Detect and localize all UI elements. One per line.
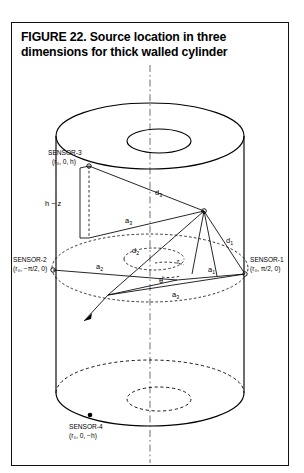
theta-outer-arc (155, 262, 184, 265)
sensor-4-label: SENSOR-4 (69, 423, 103, 430)
sensor-1-label: SENSOR-1 (250, 256, 284, 263)
d1-label: d1 (226, 236, 233, 246)
bottom-inner-bore-ellipse (127, 387, 191, 411)
theta-label: θ (159, 276, 163, 285)
source-circle-front-arc (124, 259, 184, 270)
figure-caption: FIGURE 22. Source location in three dime… (12, 23, 288, 60)
h-minus-z-label: h − z (45, 199, 62, 208)
sensor-2-label: SENSOR-2 (13, 256, 47, 263)
figure-container: FIGURE 22. Source location in three dime… (11, 22, 289, 466)
d3-label: d3 (155, 188, 162, 198)
a1-label: a1 (208, 265, 215, 275)
top-inner-bore-ellipse (127, 129, 191, 153)
a3-label-upper: a3 (125, 216, 132, 226)
d2-label: d2 (132, 246, 139, 256)
sensor-3-label: SENSOR-3 (48, 149, 82, 156)
radius-vector-r (108, 280, 177, 295)
theta-angle-arc (162, 276, 180, 278)
sensor-1-coordinates: (r₀, π/2, 0) (250, 265, 280, 273)
a2-label: a2 (96, 262, 103, 272)
sensor-2-coordinates: (r₀, −π/2, 0) (13, 265, 47, 273)
sensor-4-coordinates: (r₀, 0, −h) (69, 432, 97, 440)
ray-d3-to-sensor-3 (89, 166, 204, 211)
diagram-svg: SENSOR-3 (r₀, 0, h) SENSOR-2 (r₀, −π/2, … (12, 63, 288, 465)
sensor-4-node[interactable] (88, 413, 93, 418)
sensor-3-coordinates: (r₀, 0, h) (52, 158, 76, 166)
caption-line-2: for thick walled cylinder (91, 45, 227, 59)
cylinder-diagram: SENSOR-3 (r₀, 0, h) SENSOR-2 (r₀, −π/2, … (12, 63, 288, 465)
a3-label-lower: a3 (172, 290, 179, 300)
arrow-shaft-lower-left (84, 295, 108, 321)
